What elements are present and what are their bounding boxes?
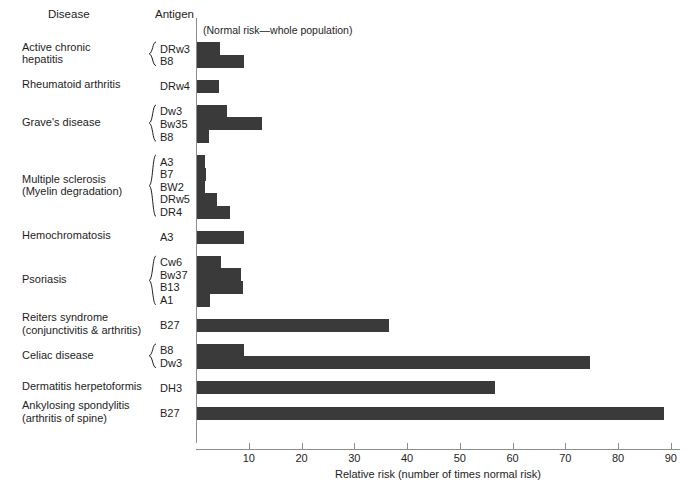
bar-a1-5 [197,294,210,307]
x-tick [460,443,461,450]
antigen-label: Bw37 [160,269,188,281]
x-tick [618,443,619,450]
x-tick [249,443,250,450]
x-tick-label: 20 [295,452,307,464]
bar-b8-7 [197,344,244,357]
antigen-label: Dw3 [160,105,182,117]
x-axis-line [196,449,680,450]
bar-b13-5 [197,281,243,294]
x-tick-label: 10 [243,452,255,464]
antigen-label: DRw3 [160,43,190,55]
bar-bw2-3 [197,180,205,193]
antigen-label: Cw6 [160,256,182,268]
antigen-label: B27 [160,407,180,419]
bar-bw37-5 [197,268,241,281]
x-tick [565,443,566,450]
antigen-label: B7 [160,168,173,180]
antigen-label: Dw3 [160,357,182,369]
x-axis-title: Relative risk (number of times normal ri… [196,468,680,480]
antigen-label-column: DRw3B8DRw4Dw3Bw35B8A3B7BW2DRw5DR4A3Cw6Bw… [0,0,197,485]
antigen-label: DRw5 [160,193,190,205]
antigen-label: DR4 [160,206,182,218]
bar-b27-6 [197,319,389,332]
x-tick-label: 60 [506,452,518,464]
antigen-label: A3 [160,231,173,243]
x-tick [671,443,672,450]
antigen-label: Bw35 [160,118,188,130]
x-tick [407,443,408,450]
bar-b8-0 [197,55,244,68]
antigen-label: B8 [160,344,173,356]
antigen-label: DRw4 [160,80,190,92]
antigen-label: B13 [160,281,180,293]
bar-cw6-5 [197,256,221,269]
antigen-label: B8 [160,55,173,67]
bar-dr4-3 [197,206,230,219]
x-tick-label: 40 [401,452,413,464]
x-tick-label: 70 [559,452,571,464]
x-tick-label: 30 [348,452,360,464]
plot-area [196,18,680,443]
antigen-label: B8 [160,131,173,143]
antigen-label: B27 [160,319,180,331]
antigen-label: A1 [160,294,173,306]
relative-risk-bar-chart: Disease Antigen (Normal risk—whole popul… [0,0,692,485]
antigen-label: BW2 [160,181,184,193]
x-axis: Relative risk (number of times normal ri… [196,443,686,485]
antigen-label: A3 [160,156,173,168]
bar-a3-3 [197,155,205,168]
x-tick-label: 50 [454,452,466,464]
x-tick-label: 80 [612,452,624,464]
bar-b8-2 [197,130,209,143]
x-tick [302,443,303,450]
bar-dw3-2 [197,105,227,118]
bar-dw3-7 [197,356,590,369]
bar-dh3-8 [197,381,495,394]
bar-b27-9 [197,407,664,420]
bar-drw5-3 [197,193,217,206]
x-tick-label: 90 [665,452,677,464]
bar-drw4-1 [197,80,219,93]
bar-a3-4 [197,231,244,244]
x-tick [513,443,514,450]
bar-bw35-2 [197,117,262,130]
bar-drw3-0 [197,42,220,55]
antigen-label: DH3 [160,382,182,394]
bar-b7-3 [197,168,206,181]
x-tick [354,443,355,450]
